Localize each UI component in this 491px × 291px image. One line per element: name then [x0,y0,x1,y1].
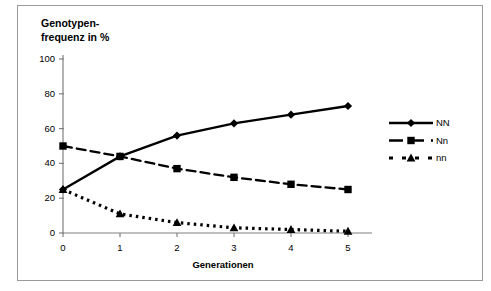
legend-marker-nn [407,154,416,162]
y-tick-label: 40 [29,157,55,168]
data-point-NN [230,119,238,127]
y-tick-label: 60 [29,123,55,134]
legend-group [389,119,433,162]
series-line-nn [63,190,348,232]
plot-canvas [18,6,484,282]
y-tick-label: 80 [29,88,55,99]
data-point-nn [173,218,182,226]
y-tick-label: 100 [29,53,55,64]
legend-item-Nn: Nn [436,135,448,146]
axes-group [59,55,372,237]
x-tick-label: 0 [53,242,73,253]
legend-marker-NN [407,119,415,127]
x-tick-label: 4 [281,242,301,253]
x-tick-label: 3 [224,242,244,253]
series-line-Nn [63,146,348,190]
legend-item-nn: nn [436,152,447,163]
series-line-NN [63,106,348,190]
data-point-NN [344,102,352,110]
data-point-nn [230,223,239,231]
chart-screenshot: Genotypen- frequenz in % 020406080100 01… [0,0,491,291]
legend-marker-Nn [407,137,414,144]
legend-item-NN: NN [436,117,450,128]
data-point-Nn [287,181,294,188]
data-point-Nn [344,186,351,193]
data-point-Nn [59,142,66,149]
data-point-NN [173,131,181,139]
data-point-Nn [173,165,180,172]
x-axis-title: Generationen [123,259,323,270]
x-tick-label: 1 [110,242,130,253]
chart-frame: Genotypen- frequenz in % 020406080100 01… [17,5,483,281]
x-tick-label: 5 [338,242,358,253]
y-tick-label: 20 [29,192,55,203]
series-group [59,102,353,235]
y-tick-label: 0 [29,227,55,238]
x-tick-label: 2 [167,242,187,253]
data-point-nn [287,225,296,233]
data-point-Nn [116,153,123,160]
data-point-Nn [230,174,237,181]
data-point-NN [287,111,295,119]
